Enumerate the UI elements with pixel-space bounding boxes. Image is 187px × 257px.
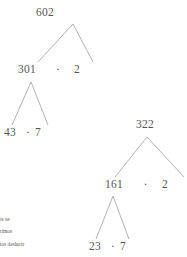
branch-322-right — [147, 137, 184, 177]
branch-161-right — [113, 196, 129, 239]
node-161: 161 — [105, 179, 129, 191]
branch-161-left — [96, 196, 113, 239]
node-602-root: 602 — [36, 7, 54, 19]
node-2-right-602: 2 — [74, 64, 80, 76]
node-602-level2: 301 · 2 — [18, 64, 80, 76]
node-322-level3: 23 · 7 — [89, 241, 126, 253]
operator-dot-322-level3: · — [106, 241, 120, 253]
node-322-root: 322 — [136, 119, 154, 131]
caption-line-3: podemos deducir — [0, 239, 24, 251]
node-322-level2: 161 · 2 — [105, 179, 168, 191]
node-602-level3: 43 · 7 — [4, 127, 41, 139]
node-301: 301 — [18, 64, 42, 76]
branch-301-right — [31, 82, 48, 125]
branch-301-left — [12, 82, 31, 125]
operator-dot-602-level2: · — [42, 64, 74, 76]
node-7-right-602: 7 — [35, 127, 41, 139]
node-23: 23 — [89, 241, 106, 253]
branch-602-left — [38, 24, 73, 62]
branch-602-right — [73, 24, 93, 62]
operator-dot-602-level3: · — [21, 127, 35, 139]
caption-line-2: ores primos — [0, 226, 12, 238]
caption-line-1: factores se — [0, 214, 10, 226]
branch-322-left — [115, 137, 147, 177]
operator-dot-322-level2: · — [129, 179, 162, 191]
node-2-right-322: 2 — [162, 179, 168, 191]
node-43: 43 — [4, 127, 21, 139]
factor-tree-figure: 602 301 · 2 43 · 7 322 161 · 2 23 · 7 fa… — [0, 0, 187, 257]
node-7-right-322: 7 — [120, 241, 126, 253]
